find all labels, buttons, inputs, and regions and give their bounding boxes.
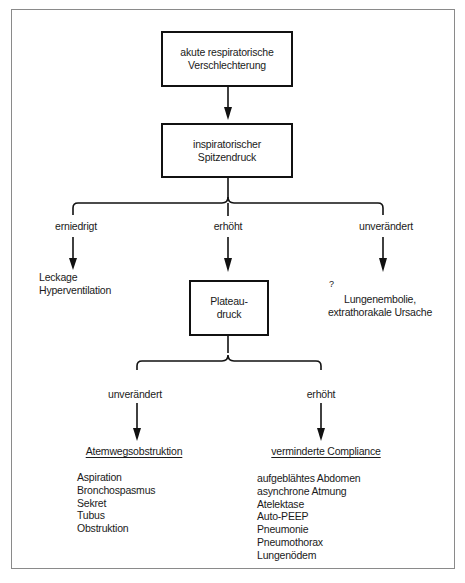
arrowhead-erniedrigt bbox=[69, 258, 77, 270]
node-peak-line1: inspiratorischer bbox=[193, 138, 261, 151]
branch-label-erniedrigt: erniedrigt bbox=[55, 220, 97, 233]
list-item: Aspiration bbox=[77, 471, 155, 484]
question-mark: ? bbox=[329, 278, 334, 291]
node-peak-inspiratory-pressure: inspiratorischer Spitzendruck bbox=[161, 123, 293, 178]
result-item: Leckage bbox=[39, 271, 111, 284]
list-item: Obstruktion bbox=[77, 522, 155, 535]
list-verminderte-compliance: aufgeblähtes Abdomen asynchrone Atmung A… bbox=[257, 472, 360, 562]
result-item: Hyperventilation bbox=[39, 284, 111, 297]
heading-verminderte-compliance: verminderte Compliance bbox=[271, 445, 380, 458]
arrowhead-erhoeht bbox=[224, 258, 232, 272]
list-atemwegsobstruktion: Aspiration Bronchospasmus Sekret Tubus O… bbox=[77, 471, 155, 535]
list-item: Sekret bbox=[77, 497, 155, 510]
list-item: asynchrone Atmung bbox=[257, 485, 360, 498]
node-plateau-line2: druck bbox=[210, 308, 248, 321]
result-item: extrathorakale Ursache bbox=[328, 306, 432, 319]
node-start-line1: akute respiratorische bbox=[180, 46, 273, 59]
arrowhead-plateau-unveraendert bbox=[133, 428, 141, 441]
node-plateau-line1: Plateau- bbox=[210, 295, 248, 308]
arrowhead-start-to-peak bbox=[224, 107, 232, 120]
list-item: Auto-PEEP bbox=[257, 510, 360, 523]
branch-label-plateau-erhoeht: erhöht bbox=[307, 388, 336, 401]
result-erniedrigt: Leckage Hyperventilation bbox=[39, 271, 111, 297]
heading-atemwegsobstruktion: Atemwegsobstruktion bbox=[86, 445, 183, 458]
node-acute-respiratory-deterioration: akute respiratorische Verschlechterung bbox=[161, 31, 293, 87]
node-start-line2: Verschlechterung bbox=[180, 59, 273, 72]
branch-label-unveraendert: unverändert bbox=[359, 220, 413, 233]
branch-label-erhoeht: erhöht bbox=[214, 220, 243, 233]
list-item: Tubus bbox=[77, 509, 155, 522]
arrowhead-plateau-erhoeht bbox=[317, 428, 325, 441]
list-item: aufgeblähtes Abdomen bbox=[257, 472, 360, 485]
branch-label-plateau-unveraendert: unverändert bbox=[108, 388, 162, 401]
brace-plateau bbox=[137, 355, 321, 370]
result-unveraendert: Lungenembolie, extrathorakale Ursache bbox=[328, 293, 432, 319]
list-item: Bronchospasmus bbox=[77, 484, 155, 497]
arrowhead-unveraendert bbox=[379, 258, 387, 272]
list-item: Pneumothorax bbox=[257, 536, 360, 549]
list-item: Atelektase bbox=[257, 498, 360, 511]
result-item: Lungenembolie, bbox=[328, 293, 432, 306]
node-peak-line2: Spitzendruck bbox=[193, 151, 261, 164]
list-item: Lungenödem bbox=[257, 549, 360, 562]
list-item: Pneumonie bbox=[257, 523, 360, 536]
node-plateau-pressure: Plateau- druck bbox=[189, 280, 269, 336]
